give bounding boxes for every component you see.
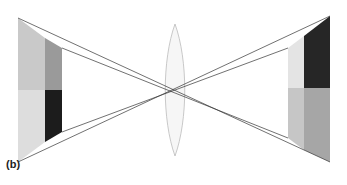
object-block — [18, 18, 62, 162]
image-face-bottom — [304, 88, 330, 162]
image-face-top — [304, 16, 330, 88]
lens-diagram — [0, 0, 347, 185]
object-side-bottom — [45, 90, 62, 142]
image-block — [288, 16, 330, 162]
image-side-top — [288, 36, 304, 88]
object-side-top — [45, 38, 62, 90]
panel-label: (b) — [6, 158, 20, 170]
image-side-bottom — [288, 88, 304, 150]
